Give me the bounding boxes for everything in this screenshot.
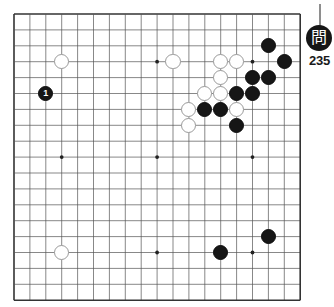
problem-badge-icon: 問 bbox=[306, 25, 332, 51]
black-stone-r14[interactable] bbox=[245, 86, 260, 101]
black-stone-t16[interactable] bbox=[277, 54, 292, 69]
black-stone-q12[interactable] bbox=[229, 118, 244, 133]
marker-stem-line bbox=[319, 4, 321, 26]
go-board[interactable]: 1 bbox=[13, 13, 299, 293]
white-stone-l16[interactable] bbox=[165, 54, 180, 69]
problem-number: 235 bbox=[305, 53, 334, 68]
go-problem-diagram: 1 問 235 bbox=[0, 0, 334, 307]
kanji-mon-label: 問 bbox=[311, 30, 327, 46]
stone-move-number: 1 bbox=[39, 87, 52, 100]
black-stone-move-1[interactable]: 1 bbox=[38, 86, 53, 101]
